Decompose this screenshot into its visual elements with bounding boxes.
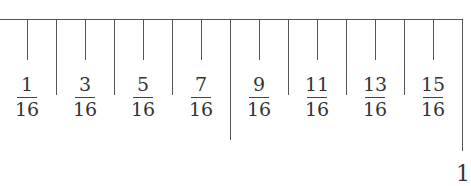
fraction-label: 1116 xyxy=(302,75,332,119)
sixteenth-tick xyxy=(201,20,202,60)
denominator: 16 xyxy=(70,100,100,119)
eighth-tick xyxy=(404,20,405,95)
eighth-tick xyxy=(346,20,347,95)
sixteenth-tick xyxy=(27,20,28,60)
eighth-tick xyxy=(462,20,463,151)
denominator: 16 xyxy=(418,100,448,119)
numerator: 9 xyxy=(244,75,274,94)
fraction-label: 1516 xyxy=(418,75,448,119)
eighth-tick xyxy=(114,20,115,95)
denominator: 16 xyxy=(302,100,332,119)
fraction-label: 516 xyxy=(128,75,158,119)
ruler-edge xyxy=(0,19,463,20)
inch-label: 1 xyxy=(456,163,470,185)
fraction-label: 316 xyxy=(70,75,100,119)
sixteenth-tick xyxy=(85,20,86,60)
fraction-label: 116 xyxy=(12,75,42,119)
sixteenth-tick xyxy=(433,20,434,60)
denominator: 16 xyxy=(360,100,390,119)
denominator: 16 xyxy=(186,100,216,119)
sixteenth-tick xyxy=(143,20,144,60)
numerator: 13 xyxy=(360,75,390,94)
fraction-label: 1316 xyxy=(360,75,390,119)
denominator: 16 xyxy=(12,100,42,119)
numerator: 3 xyxy=(70,75,100,94)
eighth-tick xyxy=(230,20,231,140)
eighth-tick xyxy=(288,20,289,95)
denominator: 16 xyxy=(244,100,274,119)
fraction-label: 716 xyxy=(186,75,216,119)
numerator: 7 xyxy=(186,75,216,94)
sixteenth-tick xyxy=(375,20,376,60)
numerator: 11 xyxy=(302,75,332,94)
denominator: 16 xyxy=(128,100,158,119)
numerator: 15 xyxy=(418,75,448,94)
numerator: 5 xyxy=(128,75,158,94)
eighth-tick xyxy=(56,20,57,95)
fraction-label: 916 xyxy=(244,75,274,119)
sixteenth-tick xyxy=(259,20,260,60)
sixteenth-tick xyxy=(317,20,318,60)
numerator: 1 xyxy=(12,75,42,94)
ruler-diagram: 116316516716916111613161516 1 xyxy=(0,0,471,186)
eighth-tick xyxy=(172,20,173,95)
